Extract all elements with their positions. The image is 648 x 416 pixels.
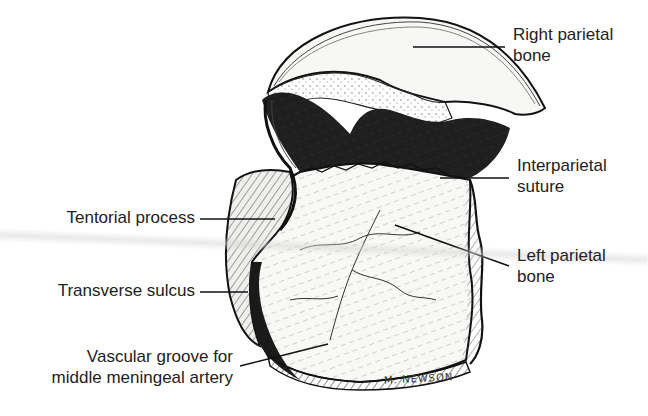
label-right-parietal-bone: Right parietal bone bbox=[513, 24, 613, 66]
label-interparietal-suture: Interparietal suture bbox=[517, 155, 607, 197]
label-text: Right parietal bbox=[513, 24, 613, 45]
label-text: Interparietal bbox=[517, 155, 607, 176]
label-text: suture bbox=[517, 176, 607, 197]
label-text: bone bbox=[513, 45, 613, 66]
label-text: middle meningeal artery bbox=[52, 367, 233, 388]
label-text: bone bbox=[517, 266, 606, 287]
label-text: Left parietal bbox=[517, 245, 606, 266]
label-tentorial-process: Tentorial process bbox=[66, 207, 195, 228]
label-text: Tentorial process bbox=[66, 207, 195, 228]
label-left-parietal-bone: Left parietal bone bbox=[517, 245, 606, 287]
label-vascular-groove: Vascular groove for middle meningeal art… bbox=[52, 346, 233, 388]
anatomy-figure: Right parietal bone Interparietal suture… bbox=[0, 0, 648, 416]
label-text: Transverse sulcus bbox=[58, 280, 195, 301]
label-text: Vascular groove for bbox=[52, 346, 233, 367]
label-transverse-sulcus: Transverse sulcus bbox=[58, 280, 195, 301]
